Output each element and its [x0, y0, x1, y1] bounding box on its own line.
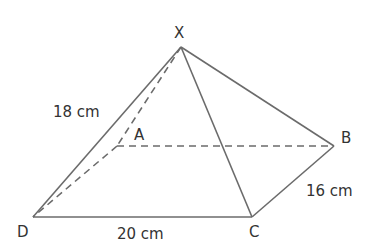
vertex-label-a: A — [134, 126, 145, 144]
measure-dc: 20 cm — [117, 225, 164, 243]
measure-xd: 18 cm — [53, 103, 100, 121]
vertex-label-b: B — [341, 129, 351, 147]
vertex-label-c: C — [249, 223, 259, 241]
vertex-label-d: D — [17, 223, 29, 241]
edge-XA-hidden — [117, 47, 181, 146]
edge-XD — [33, 47, 181, 217]
measure-cb: 16 cm — [306, 182, 353, 200]
edge-XB — [181, 47, 334, 146]
edge-AD-hidden — [33, 146, 117, 217]
vertex-label-x: X — [174, 24, 184, 42]
edge-XC — [181, 47, 252, 217]
pyramid-diagram: X A B C D 18 cm 20 cm 16 cm — [0, 0, 378, 252]
